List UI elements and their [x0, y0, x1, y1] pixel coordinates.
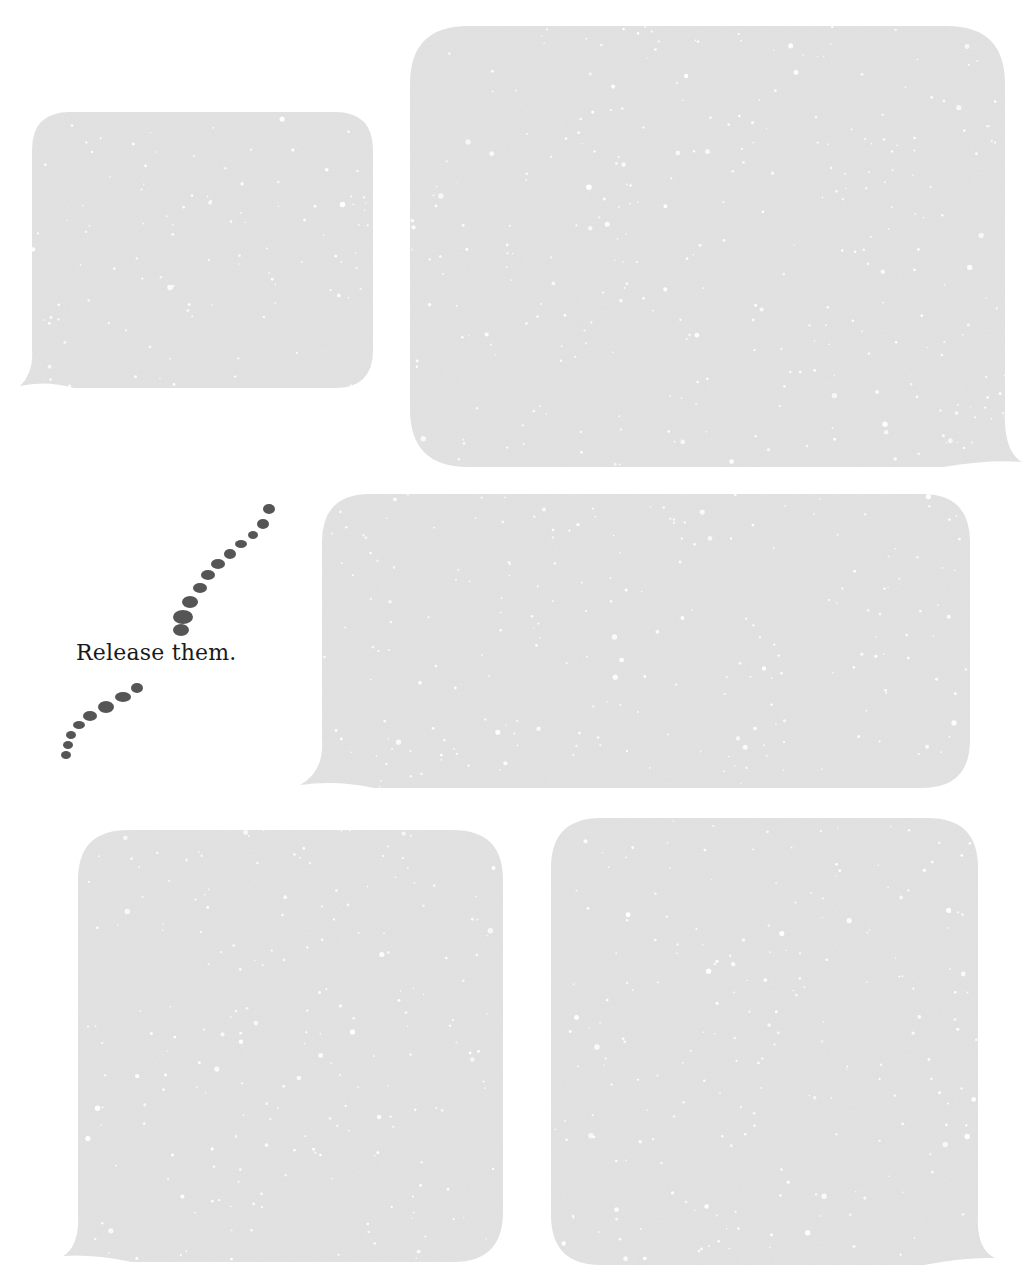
- trail-dot: [248, 531, 258, 539]
- trail-dot: [73, 721, 85, 729]
- trail-dot: [83, 711, 97, 721]
- trail-dot: [211, 559, 225, 569]
- trail-dot: [173, 610, 193, 624]
- trail-dot: [235, 540, 247, 548]
- speech-bubble-3: [300, 493, 970, 788]
- dotted-trail: [61, 504, 275, 759]
- trail-dot: [173, 624, 189, 636]
- trail-dot: [61, 751, 71, 759]
- speech-bubble-1: [20, 112, 373, 388]
- bubble-shape: [551, 818, 995, 1265]
- trail-dot: [115, 692, 131, 702]
- speech-bubbles-layer: [0, 0, 1025, 1272]
- bubble-shape: [410, 26, 1022, 467]
- trail-dot: [131, 683, 143, 693]
- speech-bubble-5: [551, 818, 995, 1265]
- speech-bubble-template-canvas: Release them.: [0, 0, 1025, 1272]
- trail-dot: [224, 549, 236, 559]
- trail-dot: [201, 570, 215, 580]
- trail-dot: [257, 519, 269, 529]
- trail-dot: [193, 583, 207, 593]
- trail-dot: [63, 741, 73, 749]
- trail-dot: [182, 596, 198, 608]
- trail-dot: [66, 731, 76, 739]
- speech-bubble-2: [410, 26, 1022, 467]
- caption-text: Release them.: [76, 642, 237, 664]
- dotted-trail-upper: [173, 504, 275, 636]
- trail-dot: [98, 701, 114, 713]
- bubble-shape: [63, 830, 503, 1262]
- dotted-trail-lower: [61, 683, 143, 759]
- bubble-shape: [20, 112, 373, 388]
- trail-dot: [263, 504, 275, 514]
- speech-bubble-4: [63, 828, 503, 1262]
